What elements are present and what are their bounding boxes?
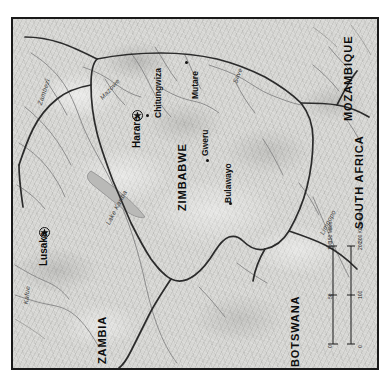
scale-bar: 0 50 100 150 Miles 0 100 200 300 Kilomet… bbox=[311, 232, 369, 354]
scale-km-tick-0: 0 bbox=[357, 345, 363, 348]
scale-miles-tick-0: 0 bbox=[327, 345, 333, 348]
scale-kilometers-label: 300 Kilometers bbox=[357, 210, 363, 243]
river-save bbox=[209, 65, 301, 105]
scale-miles-label: 150 Miles bbox=[327, 222, 333, 243]
scale-miles-tick-50: 50 bbox=[327, 293, 333, 299]
map-page: ZIMBABWE ZAMBIA BOTSWANA MOZAMBIQUE SOUT… bbox=[0, 0, 391, 389]
river-s-3 bbox=[263, 139, 283, 175]
country-label-zambia: ZAMBIA bbox=[97, 316, 108, 364]
city-label-gweru: Gweru bbox=[201, 130, 210, 156]
border-zambia-west bbox=[19, 85, 91, 165]
city-label-mutare: Mutare bbox=[191, 71, 200, 99]
border-mozambique-ne bbox=[301, 103, 369, 117]
border-zimbabwe bbox=[91, 53, 313, 281]
river-s-2 bbox=[199, 287, 225, 317]
city-label-bulawayo: Bulawayo bbox=[224, 163, 233, 203]
river-nw-3 bbox=[19, 143, 65, 197]
border-sa-botswana bbox=[253, 249, 265, 281]
city-label-lusaka: Lusaka bbox=[39, 232, 49, 266]
mutare-marker[interactable] bbox=[185, 61, 188, 64]
map-frame: ZIMBABWE ZAMBIA BOTSWANA MOZAMBIQUE SOUT… bbox=[11, 17, 379, 370]
city-label-chitungwiza: Chitungwiza bbox=[154, 68, 163, 118]
gweru-marker[interactable] bbox=[206, 159, 209, 162]
river-s-4 bbox=[313, 65, 339, 91]
river-save-b bbox=[235, 81, 255, 113]
country-label-mozambique: MOZAMBIQUE bbox=[343, 36, 354, 121]
river-s-1 bbox=[237, 263, 267, 283]
border-botswana bbox=[119, 279, 171, 368]
scale-km-tick-100: 100 bbox=[357, 291, 363, 299]
city-label-harare: Harare bbox=[132, 116, 142, 148]
border-zambia-south bbox=[19, 165, 23, 207]
chitungwiza-marker[interactable] bbox=[146, 114, 149, 117]
country-label-zimbabwe: ZIMBABWE bbox=[177, 143, 188, 211]
river-nw-1 bbox=[25, 107, 71, 165]
country-label-botswana: BOTSWANA bbox=[290, 296, 301, 367]
river-limpopo-b bbox=[299, 183, 319, 215]
